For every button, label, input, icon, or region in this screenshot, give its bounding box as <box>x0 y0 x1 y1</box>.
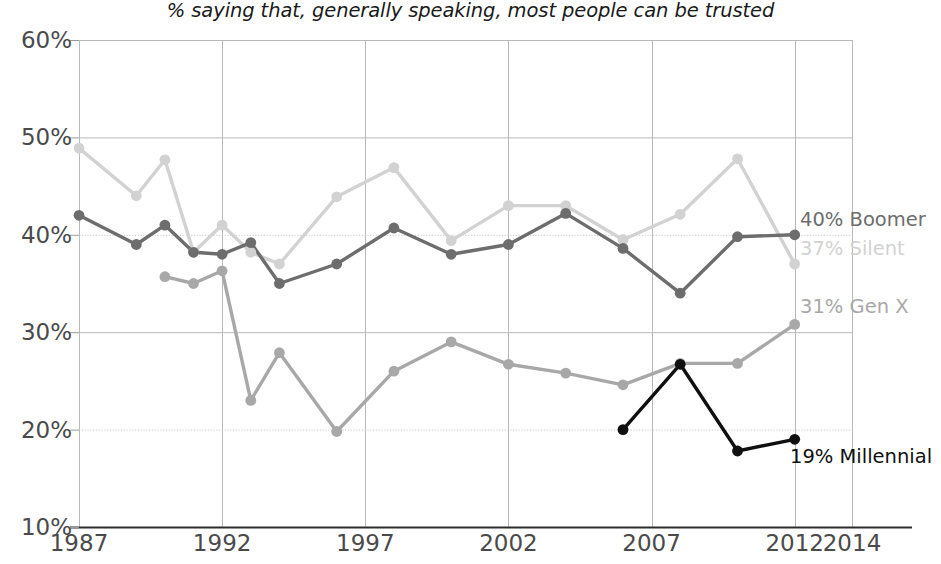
data-point <box>675 359 686 370</box>
x-axis-tick-label: 1997 <box>336 532 395 555</box>
series-markers <box>74 143 801 457</box>
data-point <box>245 395 256 406</box>
data-point <box>217 220 228 231</box>
series-lines <box>79 148 795 451</box>
data-point <box>274 278 285 289</box>
data-point <box>503 359 514 370</box>
x-axis-tick-label: 1987 <box>50 532 109 555</box>
data-point <box>503 200 514 211</box>
data-point <box>331 191 342 202</box>
data-point <box>245 237 256 248</box>
data-point <box>131 239 142 250</box>
data-point <box>131 190 142 201</box>
y-axis-tick-label: 30% <box>21 321 72 344</box>
data-point <box>732 358 743 369</box>
data-point <box>446 337 457 348</box>
data-point <box>389 366 400 377</box>
series-end-label: 31% Gen X <box>800 297 909 317</box>
trust-by-generation-chart: % saying that, generally speaking, most … <box>0 0 941 564</box>
y-axis-tick-label: 40% <box>21 224 72 247</box>
data-point <box>331 426 342 437</box>
y-axis-tick-label: 50% <box>21 126 72 149</box>
chart-plot-area <box>0 0 941 564</box>
data-point <box>188 247 199 258</box>
data-point <box>789 434 800 445</box>
data-point <box>188 278 199 289</box>
data-point <box>217 265 228 276</box>
data-point <box>74 210 85 221</box>
x-axis-tick-label: 2002 <box>479 532 538 555</box>
data-point <box>74 143 85 154</box>
series-line-gen-x <box>165 271 795 432</box>
data-point <box>618 379 629 390</box>
data-point <box>675 288 686 299</box>
data-point <box>331 259 342 270</box>
y-axis-tick-label: 20% <box>21 419 72 442</box>
data-point <box>446 249 457 260</box>
data-point <box>618 243 629 254</box>
data-point <box>160 154 171 165</box>
x-axis-tick-label: 1992 <box>193 532 252 555</box>
data-point <box>618 424 629 435</box>
data-point <box>560 368 571 379</box>
data-point <box>503 239 514 250</box>
data-point <box>446 235 457 246</box>
data-point <box>217 249 228 260</box>
data-point <box>160 271 171 282</box>
series-end-label: 19% Millennial <box>790 447 932 467</box>
data-point <box>389 223 400 234</box>
data-point <box>560 208 571 219</box>
data-point <box>274 347 285 358</box>
data-point <box>732 446 743 457</box>
data-point <box>789 259 800 270</box>
y-axis-tick-label: 60% <box>21 29 72 52</box>
series-end-label: 40% Boomer <box>800 210 926 230</box>
data-point <box>732 231 743 242</box>
data-point <box>789 319 800 330</box>
series-line-millennial <box>623 364 795 451</box>
data-point <box>274 259 285 270</box>
data-point <box>732 153 743 164</box>
data-point <box>160 220 171 231</box>
series-end-label: 37% Silent <box>800 239 905 259</box>
x-axis-tick-label: 2014 <box>823 532 882 555</box>
x-axis-tick-label: 2012 <box>765 532 824 555</box>
data-point <box>389 162 400 173</box>
data-point <box>789 229 800 240</box>
data-point <box>245 247 256 258</box>
data-point <box>675 209 686 220</box>
x-axis-tick-label: 2007 <box>622 532 681 555</box>
